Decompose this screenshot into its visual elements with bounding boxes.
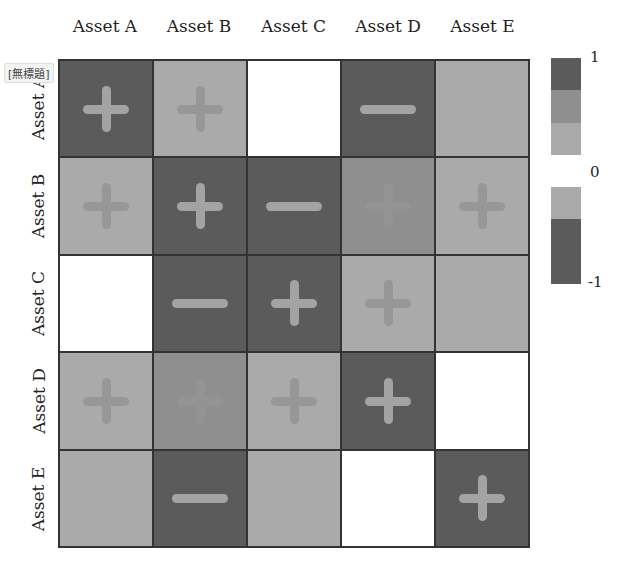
heatmap-cell (153, 157, 247, 254)
heatmap-cell (341, 450, 435, 547)
col-label-b: Asset B (152, 6, 246, 46)
plus-icon (459, 183, 505, 229)
minus-icon (172, 280, 228, 326)
heatmap-cell (59, 60, 153, 157)
plus-icon (177, 86, 223, 132)
heatmap-cell (247, 157, 341, 254)
row-label-d: Asset D (6, 352, 42, 450)
col-label-e: Asset E (435, 6, 530, 46)
heatmap-cell (435, 450, 529, 547)
untitled-badge: [無標題] (4, 63, 54, 83)
heatmap-cell (341, 255, 435, 352)
heatmap-cell (59, 255, 153, 352)
colorbar-band (551, 187, 581, 219)
plus-icon (365, 183, 411, 229)
heatmap-cell (341, 352, 435, 449)
heatmap-cell (435, 157, 529, 254)
colorbar-tick-min: -1 (588, 273, 603, 291)
plus-icon (365, 378, 411, 424)
heatmap-cell (341, 60, 435, 157)
heatmap-cell (153, 60, 247, 157)
plus-icon (83, 378, 129, 424)
colorbar-band (551, 123, 581, 155)
colorbar-band (551, 155, 581, 187)
heatmap-cell (247, 60, 341, 157)
minus-icon (360, 86, 416, 132)
heatmap-cell (435, 255, 529, 352)
plus-icon (271, 378, 317, 424)
heatmap-cell (435, 60, 529, 157)
col-label-d: Asset D (341, 6, 435, 46)
minus-icon (266, 183, 322, 229)
row-label-c: Asset C (6, 255, 42, 352)
colorbar-band (551, 90, 581, 122)
plus-icon (271, 280, 317, 326)
row-label-e: Asset E (6, 450, 42, 548)
plus-icon (459, 475, 505, 521)
colorbar-band (551, 252, 581, 284)
col-label-a: Asset A (58, 6, 152, 46)
heatmap-cell (153, 450, 247, 547)
heatmap-cell (341, 157, 435, 254)
plus-icon (177, 183, 223, 229)
heatmap-cell (59, 352, 153, 449)
plus-icon (83, 183, 129, 229)
heatmap-cell (247, 352, 341, 449)
heatmap-grid (58, 59, 530, 548)
colorbar-tick-max: 1 (590, 48, 600, 66)
heatmap-cell (247, 450, 341, 547)
colorbar-band (551, 58, 581, 90)
heatmap-cell (59, 157, 153, 254)
colorbar-band (551, 219, 581, 251)
col-label-c: Asset C (246, 6, 341, 46)
colorbar-legend (551, 58, 581, 284)
plus-icon (365, 280, 411, 326)
colorbar-tick-zero: 0 (590, 163, 600, 181)
plus-icon (177, 378, 223, 424)
row-label-b: Asset B (6, 157, 42, 255)
heatmap-cell (153, 352, 247, 449)
heatmap-cell (59, 450, 153, 547)
heatmap-cell (247, 255, 341, 352)
minus-icon (172, 475, 228, 521)
heatmap-cell (435, 352, 529, 449)
heatmap-cell (153, 255, 247, 352)
plus-icon (83, 86, 129, 132)
